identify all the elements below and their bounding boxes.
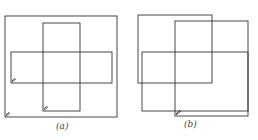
tall-rect: [175, 21, 248, 116]
corner-mark-icon: [6, 112, 10, 116]
figure-a-label: (a): [56, 121, 68, 131]
figure-a: [5, 16, 117, 117]
corner-mark-icon: [12, 78, 16, 82]
vertical-bar: [43, 23, 80, 111]
figure-b: [138, 15, 248, 116]
horizontal-rect: [142, 52, 248, 111]
horizontal-bar: [11, 52, 112, 83]
outer-square: [5, 16, 117, 117]
figure-b-label: (b): [184, 119, 197, 129]
corner-mark-icon: [44, 106, 48, 110]
diagram-canvas: [0, 0, 258, 140]
